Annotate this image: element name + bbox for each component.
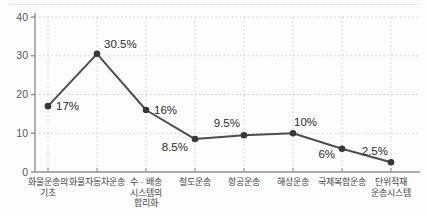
data-point bbox=[45, 103, 52, 110]
category-label: 수 · 배송시스템의합리화 bbox=[130, 177, 162, 208]
data-point bbox=[192, 136, 199, 143]
y-tick-label: 0 bbox=[22, 166, 28, 178]
category-label: 화물자동차운송 bbox=[69, 176, 125, 187]
category-label: 단위적재운송시스템 bbox=[371, 176, 411, 198]
data-point bbox=[339, 145, 346, 152]
point-label: 30.5% bbox=[104, 38, 137, 50]
point-label: 17% bbox=[56, 100, 79, 112]
point-label: 16% bbox=[154, 104, 177, 116]
point-label: 9.5% bbox=[214, 117, 240, 129]
category-label: 해상운송 bbox=[277, 177, 309, 187]
line-chart-svg: 01020304017%30.5%16%8.5%9.5%10%6%2.5%화물운… bbox=[0, 0, 427, 216]
cargo-transport-mode-line-chart: 01020304017%30.5%16%8.5%9.5%10%6%2.5%화물운… bbox=[0, 0, 427, 216]
y-tick-label: 20 bbox=[16, 88, 28, 100]
category-label: 화물운송의기초 bbox=[28, 177, 68, 198]
y-tick-label: 40 bbox=[16, 11, 28, 23]
data-point bbox=[290, 130, 297, 137]
category-label: 항공운송 bbox=[228, 177, 260, 187]
point-label: 2.5% bbox=[362, 145, 388, 157]
point-label: 10% bbox=[294, 116, 317, 128]
y-tick-labels: 010203040 bbox=[16, 11, 28, 178]
data-line bbox=[48, 54, 391, 163]
y-tick-label: 10 bbox=[16, 127, 28, 139]
data-point bbox=[94, 51, 101, 58]
data-point bbox=[143, 107, 150, 114]
point-label: 6% bbox=[318, 148, 335, 160]
y-tick-label: 30 bbox=[16, 49, 28, 61]
data-point bbox=[241, 132, 248, 139]
data-point bbox=[388, 159, 395, 166]
scan-artifact-line bbox=[10, 4, 420, 5]
category-label: 철도운송 bbox=[179, 177, 211, 187]
category-labels: 화물운송의기초화물자동차운송수 · 배송시스템의합리화철도운송항공운송해상운송국… bbox=[28, 176, 411, 208]
chart-canvas: 01020304017%30.5%16%8.5%9.5%10%6%2.5%화물운… bbox=[0, 0, 427, 216]
point-label: 8.5% bbox=[162, 141, 188, 153]
category-label: 국제복합운송 bbox=[318, 177, 366, 187]
